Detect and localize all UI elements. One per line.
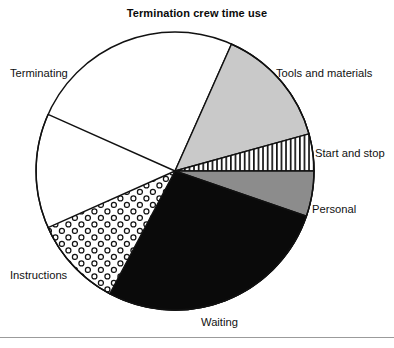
pie-chart-figure: Termination crew time use Terminating To… [0,0,394,348]
slice-label-personal: Personal [312,204,356,215]
slice-label-terminating: Terminating [10,68,68,79]
pie-chart-canvas [0,0,394,348]
slice-label-tools-and-materials: Tools and materials [276,68,372,79]
slice-label-instructions: Instructions [10,270,67,281]
footer-divider [0,337,394,338]
slice-label-waiting: Waiting [201,317,238,328]
slice-label-start-and-stop: Start and stop [315,148,385,159]
